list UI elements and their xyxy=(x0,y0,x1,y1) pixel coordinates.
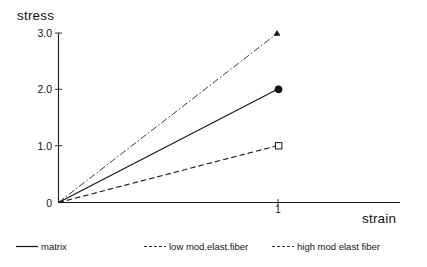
legend-item-low-mod-elast-fiber: low mod.elast.fiber xyxy=(144,238,248,254)
series-line-high-mod-elast-fiber xyxy=(59,34,278,203)
chart-legend: matrix low mod.elast.fiber high mod elas… xyxy=(0,238,427,258)
series-marker-high-mod-elast-fiber xyxy=(274,31,280,36)
series-line-matrix xyxy=(59,90,278,203)
plot-area xyxy=(0,0,427,267)
legend-swatch-dash-dot-icon xyxy=(272,242,294,251)
legend-label-matrix: matrix xyxy=(41,241,67,252)
legend-item-matrix: matrix xyxy=(16,238,67,254)
legend-label-high-mod-elast-fiber: high mod elast fiber xyxy=(297,241,380,252)
series-marker-low-mod-elast-fiber xyxy=(276,143,282,149)
legend-item-high-mod-elast-fiber: high mod elast fiber xyxy=(272,238,380,254)
series-marker-matrix xyxy=(275,86,282,93)
series-line-low-mod-elast-fiber xyxy=(59,146,277,203)
stress-strain-chart: stress strain 3.0 2.0 1.0 0 1 xyxy=(0,0,427,267)
legend-swatch-dashed-icon xyxy=(144,242,166,251)
legend-label-low-mod-elast-fiber: low mod.elast.fiber xyxy=(169,241,248,252)
legend-swatch-solid-icon xyxy=(16,242,38,251)
